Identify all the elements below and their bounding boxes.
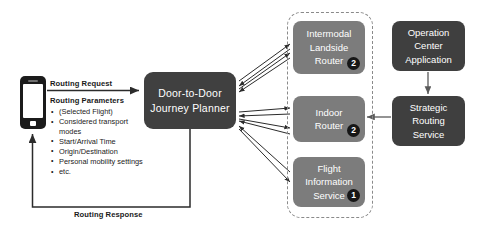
node-door-to-door-journey-planner[interactable]: Door-to-Door Journey Planner bbox=[144, 72, 236, 129]
routing-parameter-item: Origin/Destination bbox=[50, 147, 146, 157]
node-label-line: Strategic bbox=[410, 101, 448, 115]
routing-response-label: Routing Response bbox=[74, 210, 143, 219]
node-label-line: Center bbox=[414, 39, 443, 53]
node-label-line: Service bbox=[313, 189, 345, 203]
badge-indoor-router: 2 bbox=[347, 124, 360, 137]
node-label-line: Operation bbox=[408, 26, 450, 40]
badge-flight-information-service: 1 bbox=[347, 189, 360, 202]
node-strategic-routing-service[interactable]: Strategic Routing Service bbox=[392, 96, 465, 146]
routing-parameters-title: Routing Parameters bbox=[50, 96, 146, 105]
node-label-line: Door-to-Door bbox=[158, 86, 222, 101]
routing-parameter-item: Start/Arrival Time bbox=[50, 137, 146, 147]
node-label-line: Router bbox=[315, 119, 344, 133]
node-label-line: Journey Planner bbox=[150, 101, 229, 116]
diagram-canvas: Routing Request Routing Response Routing… bbox=[0, 0, 477, 232]
smartphone-icon bbox=[20, 76, 46, 129]
node-label-line: Flight bbox=[317, 162, 340, 176]
routing-parameter-item: Personal mobility settings bbox=[50, 157, 146, 167]
badge-intermodal-landside-router: 2 bbox=[347, 57, 360, 70]
node-label-line: Routing bbox=[412, 114, 445, 128]
edge-planner-indoor-router bbox=[239, 108, 290, 134]
edge-planner-intermodal-landside-router bbox=[239, 44, 290, 92]
phone-home-button-icon bbox=[30, 121, 36, 126]
edge-planner-flight-information-service bbox=[239, 126, 290, 182]
node-operation-center-application[interactable]: Operation Center Application bbox=[392, 21, 465, 71]
node-label-line: Router bbox=[315, 54, 344, 68]
routing-request-label: Routing Request bbox=[50, 79, 112, 88]
node-label-line: Application bbox=[405, 53, 451, 67]
routing-parameter-item: etc. bbox=[50, 167, 146, 177]
node-label-line: Information bbox=[305, 175, 353, 189]
phone-screen bbox=[23, 84, 43, 118]
phone-speaker-icon bbox=[28, 80, 38, 82]
node-label-line: Service bbox=[413, 128, 445, 142]
routing-parameters-block: Routing Parameters (Selected Flight) Con… bbox=[50, 96, 146, 177]
node-label-line: Indoor bbox=[316, 106, 343, 120]
node-label-line: Intermodal bbox=[307, 27, 352, 41]
routing-parameter-item: (Selected Flight) bbox=[50, 107, 146, 117]
routing-parameter-item: Considered transport modes bbox=[50, 117, 146, 136]
node-label-line: Landside bbox=[310, 41, 349, 55]
